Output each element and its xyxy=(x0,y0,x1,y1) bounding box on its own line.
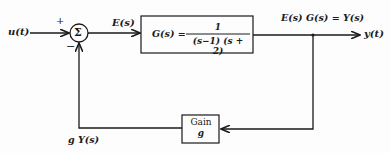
summing-junction-symbol: Σ xyxy=(74,26,82,39)
gain-block-symbol: g xyxy=(189,128,213,138)
plant-denominator: (s−1) (s + 2) xyxy=(186,36,250,56)
gain-block-title: Gain xyxy=(189,117,213,127)
output-expression: E(s) G(s) = Y(s) xyxy=(281,12,364,23)
plus-sign: + xyxy=(56,15,64,26)
output-label: y(t) xyxy=(364,28,384,39)
error-signal-label: E(s) xyxy=(112,17,135,28)
input-label: u(t) xyxy=(8,26,29,37)
plant-numerator: 1 xyxy=(186,22,250,32)
plant-lhs: G(s) = xyxy=(152,28,186,39)
feedback-signal-label: g Y(s) xyxy=(68,134,99,145)
minus-sign: − xyxy=(66,40,75,53)
block-diagram: u(t) + − Σ E(s) G(s) = 1 (s−1) (s + 2) E… xyxy=(0,0,390,153)
